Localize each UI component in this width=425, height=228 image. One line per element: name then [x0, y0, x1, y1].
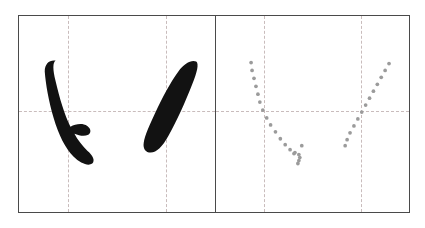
stroke-glyph-pie-dotted	[313, 16, 410, 212]
trace-dot	[379, 75, 383, 79]
trace-dot	[296, 162, 300, 166]
panel-1-shu-wan-gou-solid	[19, 16, 117, 212]
panel-2-pie-solid	[117, 16, 215, 212]
stroke-glyph-pie-solid	[117, 16, 215, 212]
trace-dot	[269, 123, 273, 127]
stroke-glyph-shu-wan-gou-solid	[19, 16, 117, 212]
ink-path-shu-wan-gou	[45, 60, 94, 164]
panel-3-shu-wan-gou-dotted	[216, 16, 313, 212]
trace-dot	[300, 144, 304, 148]
trace-dot	[355, 117, 359, 121]
trace-dot	[278, 137, 282, 141]
trace-dot	[258, 100, 262, 104]
trace-dot	[254, 84, 258, 88]
trace-dot	[387, 62, 391, 66]
trace-dot	[359, 110, 363, 114]
trace-dot	[343, 144, 347, 148]
trace-dot	[383, 69, 387, 73]
trace-dot	[363, 103, 367, 107]
trace-dot	[261, 108, 265, 112]
trace-dot	[288, 148, 292, 152]
stroke-glyph-shu-wan-gou-dotted	[216, 16, 313, 212]
ink-path-pie	[144, 61, 198, 153]
panel-4-pie-dotted	[313, 16, 410, 212]
trace-dot	[352, 124, 356, 128]
dotted-trace-group	[215, 15, 410, 213]
trace-dot	[274, 130, 278, 134]
stroke-reference-figure	[0, 0, 425, 228]
trace-dot	[283, 143, 287, 147]
trace-dot	[292, 152, 296, 156]
trace-dot	[371, 89, 375, 93]
trace-dot	[265, 116, 269, 120]
trace-dot	[256, 92, 260, 96]
trace-dot	[375, 82, 379, 86]
solid-ink-group	[18, 15, 216, 213]
trace-dot	[367, 96, 371, 100]
trace-dot	[252, 76, 256, 80]
trace-dot	[250, 69, 254, 73]
trace-dot	[345, 138, 349, 142]
trace-dot	[249, 61, 253, 65]
trace-dot	[348, 131, 352, 135]
